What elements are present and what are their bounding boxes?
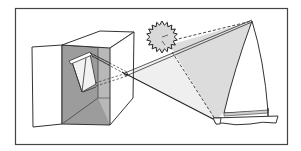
camera-obscura-diagram [0, 0, 301, 151]
open-door [32, 45, 62, 127]
